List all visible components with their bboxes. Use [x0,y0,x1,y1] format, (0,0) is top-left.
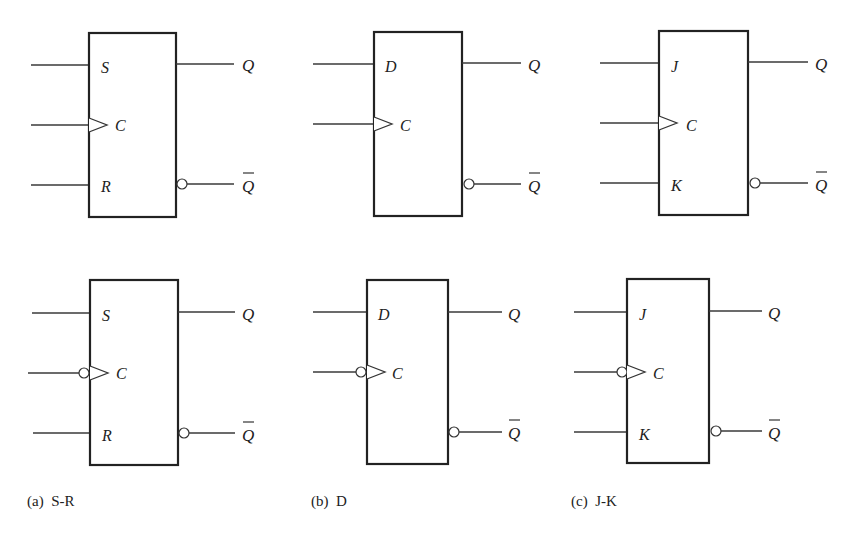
q-output-label: Q [242,56,254,75]
c-pin-label: C [392,365,403,382]
c-pin-label: C [116,365,127,382]
flip-flop-diagram: S C R Q Q D C Q Q J C K Q [0,0,863,536]
j-pin-label: J [671,58,679,75]
caption-sr: (a) S-R [27,493,75,510]
c-pin-label: C [115,117,126,134]
d-pin-label: D [377,306,390,323]
j-pin-label: J [639,306,647,323]
sr-flip-flop-positive: S C R Q Q [31,33,254,217]
inversion-bubble-icon [464,179,474,189]
k-pin-label: K [670,177,683,194]
k-pin-label: K [638,426,651,443]
c-pin-label: C [653,365,664,382]
c-pin-label: C [686,117,697,134]
q-bar-output-label: Q [768,424,780,443]
caption-jk: (c) J-K [571,493,617,510]
inversion-bubble-icon [711,426,721,436]
s-pin-label: S [102,307,110,324]
q-output-label: Q [528,56,540,75]
c-pin-label: C [400,117,411,134]
d-flip-flop-positive: D C Q Q [313,32,540,216]
clock-inversion-bubble-icon [356,367,366,377]
inversion-bubble-icon [177,179,187,189]
s-pin-label: S [101,59,109,76]
r-pin-label: R [101,427,112,444]
q-bar-output-label: Q [815,176,827,195]
jk-flip-flop-positive: J C K Q Q [600,31,827,215]
q-bar-output-label: Q [508,424,520,443]
q-output-label: Q [768,304,780,323]
caption-d: (b) D [311,493,347,510]
d-pin-label: D [384,58,397,75]
q-bar-output-label: Q [242,177,254,196]
inversion-bubble-icon [179,428,189,438]
q-bar-output-label: Q [528,177,540,196]
jk-flip-flop-negative: J C K Q Q [574,279,780,463]
clock-inversion-bubble-icon [617,367,627,377]
d-flip-flop-negative: D C Q Q [313,280,520,464]
r-pin-label: R [100,178,111,195]
clock-inversion-bubble-icon [79,368,89,378]
sr-flip-flop-negative: S C R Q Q [28,280,254,465]
q-output-label: Q [242,305,254,324]
q-output-label: Q [815,55,827,74]
inversion-bubble-icon [449,427,459,437]
q-output-label: Q [508,305,520,324]
q-bar-output-label: Q [242,426,254,445]
inversion-bubble-icon [750,178,760,188]
